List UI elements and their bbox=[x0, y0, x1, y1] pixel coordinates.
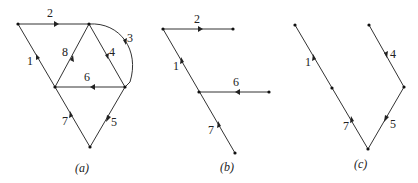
edge-label-8: 8 bbox=[62, 45, 68, 59]
edge-label-7: 7 bbox=[62, 114, 68, 128]
arrow-icon bbox=[180, 57, 184, 64]
edge-label-3: 3 bbox=[127, 31, 133, 45]
edge-label-6: 6 bbox=[233, 75, 239, 89]
edge-label-7: 7 bbox=[208, 123, 214, 137]
node bbox=[330, 86, 333, 89]
node bbox=[267, 90, 270, 93]
arrow-icon bbox=[36, 54, 40, 60]
arrow-icon bbox=[198, 26, 203, 32]
edge-label-1: 1 bbox=[173, 59, 179, 73]
panel-caption: (a) bbox=[75, 161, 89, 175]
edge-7 bbox=[55, 87, 90, 147]
arrow-icon bbox=[90, 84, 95, 90]
panel-caption: (c) bbox=[354, 157, 367, 171]
node bbox=[197, 90, 200, 93]
graph-figure: 2 1 8 4 3 6 7 5 (a) 2 1 6 7 (b) bbox=[0, 0, 418, 183]
arrow-icon bbox=[350, 116, 354, 123]
edge-label-2: 2 bbox=[47, 6, 53, 20]
node bbox=[87, 22, 90, 25]
edge-label-4: 4 bbox=[109, 45, 115, 59]
node bbox=[233, 151, 236, 154]
edge-label-5: 5 bbox=[111, 115, 117, 129]
node bbox=[123, 85, 126, 88]
edge-label-2: 2 bbox=[194, 12, 200, 26]
node bbox=[161, 27, 164, 30]
panel-a: 2 1 8 4 3 6 7 5 (a) bbox=[16, 6, 133, 175]
panel-c: 1 4 7 5 (c) bbox=[293, 23, 405, 171]
node bbox=[293, 23, 296, 26]
node bbox=[53, 85, 56, 88]
edge-label-5: 5 bbox=[390, 117, 396, 131]
panel-caption: (b) bbox=[220, 160, 234, 174]
edge-label-1: 1 bbox=[27, 54, 33, 68]
edge-label-1: 1 bbox=[305, 55, 311, 69]
node bbox=[366, 147, 369, 150]
node bbox=[16, 22, 19, 25]
node bbox=[88, 145, 91, 148]
edge-label-6: 6 bbox=[84, 70, 90, 84]
arrow-icon bbox=[384, 115, 389, 122]
node bbox=[402, 85, 405, 88]
panel-b: 2 1 6 7 (b) bbox=[161, 12, 270, 174]
node bbox=[231, 27, 234, 30]
node bbox=[367, 23, 370, 26]
edge-label-4: 4 bbox=[390, 47, 396, 61]
edge-label-7: 7 bbox=[343, 119, 349, 133]
arrow-icon bbox=[54, 21, 59, 27]
arrow-icon bbox=[235, 89, 240, 95]
